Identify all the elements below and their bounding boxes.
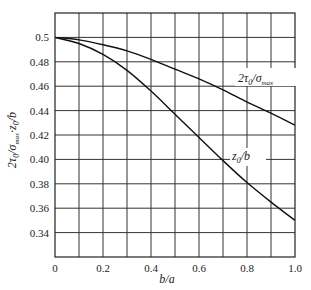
y-tick-label: 0.48 xyxy=(30,56,50,68)
y-tick-label: 0.36 xyxy=(30,202,50,214)
x-tick-label: 0.8 xyxy=(240,262,254,274)
x-tick-label: 0.6 xyxy=(192,262,206,274)
y-axis-label: 2τ0/σmax·z0/b xyxy=(5,112,21,168)
annotation-lower: z0/b xyxy=(231,149,250,165)
grid xyxy=(55,13,295,257)
x-tick-label: 1.0 xyxy=(288,262,302,274)
y-tick-label: 0.34 xyxy=(30,227,50,239)
y-tick-label: 0.40 xyxy=(30,153,50,165)
y-tick-label: 0.42 xyxy=(30,129,49,141)
x-tick-label: 0.2 xyxy=(96,262,110,274)
y-tick-label: 0.44 xyxy=(30,105,50,117)
y-tick-label: 0.46 xyxy=(30,80,50,92)
chart: 00.20.40.60.81.00.340.360.380.400.420.44… xyxy=(0,0,311,290)
y-tick-label: 0.5 xyxy=(35,31,49,43)
x-tick-label: 0.4 xyxy=(144,262,158,274)
x-axis-label: b/a xyxy=(159,272,174,286)
y-tick-label: 0.38 xyxy=(30,178,50,190)
x-tick-label: 0 xyxy=(52,262,58,274)
